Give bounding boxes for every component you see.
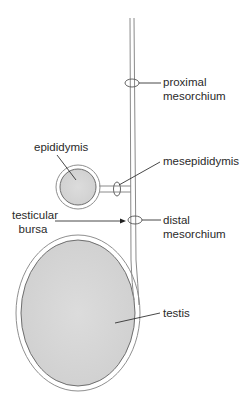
mesorchium-cord — [130, 18, 139, 305]
label-line: bursa — [12, 222, 54, 236]
label-line: proximal — [163, 75, 226, 89]
proximal-mesorchium-section-icon — [125, 79, 139, 87]
label-epididymis: epididymis — [34, 140, 88, 154]
testis-shape — [16, 235, 140, 391]
label-line: mesorchium — [163, 227, 226, 241]
label-distal-mesorchium: distal mesorchium — [163, 213, 226, 241]
label-testis: testis — [163, 306, 190, 320]
arrow-head-icon — [120, 219, 126, 224]
diagram-canvas — [0, 0, 247, 405]
label-line: testicular — [12, 208, 54, 222]
mesepididymis-stalk — [99, 186, 131, 192]
distal-mesorchium-section-icon — [128, 216, 142, 224]
label-proximal-mesorchium: proximal mesorchium — [163, 75, 226, 103]
label-testicular-bursa: testicular bursa — [12, 208, 54, 236]
label-line: distal — [163, 213, 226, 227]
mesepididymis-section-icon — [114, 182, 121, 196]
epididymis-shape — [56, 165, 100, 209]
label-line: mesorchium — [163, 89, 226, 103]
label-mesepididymis: mesepididymis — [163, 154, 239, 168]
